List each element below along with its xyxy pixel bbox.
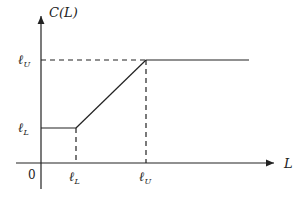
diagram-canvas: C(L) L 0 ℓU ℓL ℓL ℓU <box>0 0 308 199</box>
y-tick-label-lower: ℓL <box>18 120 29 137</box>
x-tick-label-lower: ℓL <box>69 169 80 186</box>
y-tick-label-upper: ℓU <box>18 52 30 69</box>
x-axis-label: L <box>283 156 293 171</box>
origin-label: 0 <box>28 168 36 182</box>
x-tick-label-upper: ℓU <box>139 169 151 186</box>
y-axis-label: C(L) <box>49 5 78 20</box>
segment-linear-ramp <box>76 60 146 128</box>
